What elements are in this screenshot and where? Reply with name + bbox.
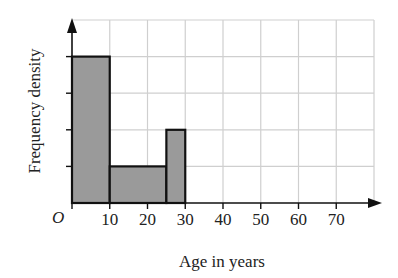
x-axis-title: Age in years xyxy=(179,252,265,271)
x-tick-label: 10 xyxy=(101,210,118,229)
origin-label: O xyxy=(52,208,64,227)
x-tick-label: 20 xyxy=(139,210,156,229)
x-tick-label: 60 xyxy=(290,210,307,229)
x-axis-arrow-icon xyxy=(368,198,382,208)
x-tick-label: 50 xyxy=(252,210,269,229)
histogram-bar xyxy=(166,130,185,203)
x-tick-label: 70 xyxy=(328,210,345,229)
x-tick-label: 30 xyxy=(177,210,194,229)
histogram-bar xyxy=(72,57,110,203)
histogram-bar xyxy=(110,166,167,203)
tick-labels: 10203040506070 xyxy=(101,210,345,229)
y-axis-title: Frequency density xyxy=(25,48,44,174)
x-tick-label: 40 xyxy=(215,210,232,229)
histogram-chart: 10203040506070 O Age in years Frequency … xyxy=(0,0,398,278)
